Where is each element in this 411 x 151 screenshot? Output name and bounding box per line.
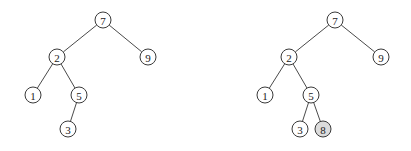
tree-after-edges	[269, 25, 374, 121]
tree-before-nodes: 729153	[25, 12, 156, 137]
edge-2-5	[61, 64, 75, 88]
tree-node: 3	[60, 121, 76, 137]
node-label: 3	[65, 124, 71, 136]
tree-node-highlighted: 8	[315, 121, 331, 137]
node-label: 9	[378, 52, 384, 64]
node-label: 1	[30, 90, 36, 102]
node-label: 7	[332, 15, 338, 27]
edge-7-9	[341, 25, 375, 52]
node-label: 5	[76, 90, 82, 102]
tree-node: 5	[71, 87, 87, 103]
node-label: 2	[54, 52, 60, 64]
tree-node: 9	[373, 49, 389, 65]
tree-node: 7	[95, 12, 111, 28]
tree-node: 5	[303, 87, 319, 103]
edge-2-1	[269, 64, 284, 88]
edge-7-2	[63, 25, 97, 52]
edge-7-2	[295, 25, 329, 52]
node-label: 7	[100, 15, 106, 27]
edges-layer	[37, 25, 374, 121]
edge-7-9	[109, 25, 142, 52]
edge-2-1	[37, 64, 52, 88]
edge-5-3	[302, 103, 308, 122]
tree-after-nodes: 7291538	[257, 12, 389, 137]
nodes-layer: 7291537291538	[25, 12, 389, 137]
node-label: 3	[297, 124, 303, 136]
tree-node: 2	[281, 49, 297, 65]
tree-before-edges	[37, 25, 142, 121]
edge-5-3	[70, 103, 76, 122]
edge-5-8	[314, 103, 321, 122]
edge-2-5	[293, 64, 307, 88]
tree-node: 9	[140, 49, 156, 65]
tree-node: 1	[25, 87, 41, 103]
node-label: 5	[308, 90, 314, 102]
node-label: 9	[145, 52, 151, 64]
tree-node: 7	[327, 12, 343, 28]
tree-node: 2	[49, 49, 65, 65]
tree-node: 1	[257, 87, 273, 103]
tree-diagram: 7291537291538	[0, 0, 411, 151]
node-label: 1	[262, 90, 268, 102]
node-label: 2	[286, 52, 292, 64]
node-label: 8	[320, 124, 326, 136]
tree-node: 3	[292, 121, 308, 137]
